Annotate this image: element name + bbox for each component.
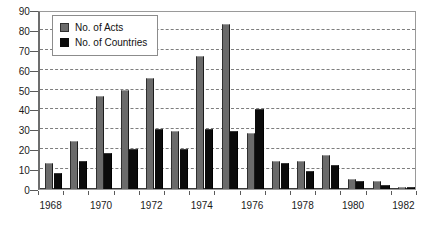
bar-countries-1975 [230,131,238,189]
y-tick-mark-90 [30,11,38,12]
x-tick-mark-0 [38,191,39,195]
bar-group [171,12,188,189]
x-axis: 19681970197219741976197819801982 [38,191,416,221]
x-tick-mark-13 [366,191,367,195]
bar-countries-1979 [331,165,339,189]
y-tick-label-30: 30 [19,125,30,136]
bar-acts-1977 [272,161,280,189]
bar-acts-1971 [121,90,129,189]
chart-legend: No. of ActsNo. of Countries [52,15,158,56]
y-tick-mark-40 [30,110,38,111]
y-tick-label-90: 90 [19,6,30,17]
x-tick-mark-4 [139,191,140,195]
x-tick-label-1968: 1968 [39,200,61,211]
y-tick-mark-70 [30,51,38,52]
bar-countries-1978 [306,171,314,189]
bar-acts-1970 [96,96,104,189]
bar-group [322,12,339,189]
y-tick-label-50: 50 [19,85,30,96]
bar-countries-1974 [205,129,213,189]
legend-swatch-acts-icon [60,23,69,32]
bar-group [297,12,314,189]
x-tick-mark-12 [340,191,341,195]
bar-acts-1974 [196,56,204,189]
y-tick-mark-10 [30,170,38,171]
legend-label: No. of Countries [75,37,147,48]
y-tick-mark-80 [30,31,38,32]
bar-acts-1982 [398,187,406,189]
legend-swatch-countries-icon [60,38,69,47]
bar-group [272,12,289,189]
x-tick-label-1972: 1972 [140,200,162,211]
x-tick-label-1982: 1982 [392,200,414,211]
bar-group [373,12,390,189]
y-tick-mark-30 [30,130,38,131]
bar-countries-1982 [407,187,415,189]
bar-acts-1969 [70,141,78,189]
legend-item-countries: No. of Countries [60,35,147,50]
y-tick-mark-20 [30,150,38,151]
x-tick-mark-8 [240,191,241,195]
bar-countries-1970 [104,153,112,189]
bar-acts-1978 [297,161,305,189]
y-tick-mark-50 [30,91,38,92]
bar-countries-1980 [356,181,364,189]
bar-countries-1972 [155,129,163,189]
bar-acts-1975 [222,24,230,189]
bar-group [222,12,239,189]
y-tick-mark-60 [30,71,38,72]
x-tick-label-1976: 1976 [241,200,263,211]
y-tick-mark-0 [30,190,38,191]
y-tick-label-20: 20 [19,145,30,156]
bar-group [196,12,213,189]
bar-countries-1977 [281,163,289,189]
bar-group [398,12,415,189]
x-tick-mark-14 [391,191,392,195]
bar-acts-1980 [348,179,356,189]
bar-chart: 0102030405060708090 19681970197219741976… [0,0,427,226]
bar-countries-1973 [180,149,188,189]
bar-acts-1979 [322,155,330,189]
y-axis: 0102030405060708090 [0,0,38,200]
x-tick-label-1978: 1978 [291,200,313,211]
y-tick-label-40: 40 [19,105,30,116]
x-tick-mark-11 [315,191,316,195]
x-tick-mark-3 [114,191,115,195]
x-tick-label-1974: 1974 [191,200,213,211]
x-tick-label-1970: 1970 [90,200,112,211]
x-tick-mark-15 [416,191,417,195]
bar-group [247,12,264,189]
bar-countries-1968 [54,173,62,189]
bar-acts-1981 [373,181,381,189]
bar-acts-1972 [146,78,154,189]
bar-group [348,12,365,189]
bar-countries-1971 [129,149,137,189]
bar-countries-1981 [381,185,389,189]
y-tick-label-80: 80 [19,25,30,36]
x-tick-label-1980: 1980 [342,200,364,211]
bar-acts-1968 [45,163,53,189]
x-tick-mark-10 [290,191,291,195]
bar-countries-1969 [79,161,87,189]
x-tick-mark-2 [88,191,89,195]
y-tick-label-70: 70 [19,45,30,56]
x-tick-mark-5 [164,191,165,195]
bar-acts-1973 [171,131,179,189]
x-tick-mark-9 [265,191,266,195]
x-tick-mark-7 [214,191,215,195]
y-tick-label-60: 60 [19,65,30,76]
y-tick-label-10: 10 [19,165,30,176]
legend-label: No. of Acts [75,22,123,33]
x-tick-mark-6 [189,191,190,195]
bar-acts-1976 [247,133,255,189]
legend-item-acts: No. of Acts [60,20,147,35]
x-tick-mark-1 [63,191,64,195]
bar-countries-1976 [255,109,263,189]
